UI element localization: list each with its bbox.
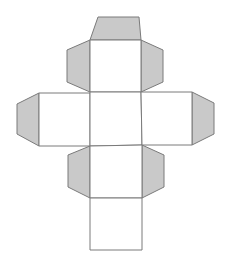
cube-faces (39, 40, 192, 250)
face-top (90, 40, 141, 92)
flap-top-cap (90, 17, 141, 40)
flap-upper-left (67, 40, 90, 92)
flap-right-side (192, 92, 214, 145)
face-bottom (90, 198, 142, 250)
flap-lower-left (68, 146, 90, 198)
cube-net-diagram (0, 0, 226, 260)
face-right (141, 92, 192, 145)
flap-left-side (17, 93, 39, 146)
face-center (90, 92, 142, 146)
flap-lower-right (142, 145, 164, 198)
flap-upper-right (141, 40, 163, 92)
face-lower (90, 145, 142, 198)
face-left (39, 93, 90, 146)
